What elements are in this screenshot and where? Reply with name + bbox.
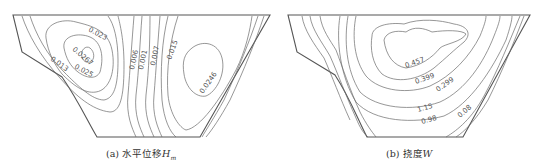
caption-a-prefix: (a) 水平位移 xyxy=(106,148,162,159)
contour-line xyxy=(136,16,144,137)
caption-b-symbol: W xyxy=(423,148,433,159)
contour-line xyxy=(446,16,520,137)
caption-panel-a: (a) 水平位移Hm xyxy=(106,146,176,161)
panel-a-outline xyxy=(13,15,270,137)
contour-line xyxy=(161,16,176,137)
panel-b-deflection: 0.457 0.399 0.299 1.15 0.98 0.08 xyxy=(288,15,530,137)
contour-label: 0.98 xyxy=(420,114,437,126)
contour-label: 1.15 xyxy=(416,102,433,114)
contour-line xyxy=(22,16,124,112)
contour-line xyxy=(154,16,162,137)
contour-label: 0.457 xyxy=(404,56,426,70)
panel-a-horizontal-displacement: 0.023 0.0267 0.025 0.013 0.006 0.001 0.0… xyxy=(13,15,270,137)
contour-line xyxy=(146,16,154,137)
contour-label: 0.025 xyxy=(73,63,94,79)
contour-label: 0.08 xyxy=(456,103,473,119)
contour-line xyxy=(128,16,136,137)
caption-a-subscript: m xyxy=(170,154,176,161)
contour-label: 0.399 xyxy=(414,72,436,86)
contour-line xyxy=(320,16,376,137)
contour-figure: 0.023 0.0267 0.025 0.013 0.006 0.001 0.0… xyxy=(0,0,547,167)
contour-line xyxy=(310,16,368,137)
contour-label: 0.015 xyxy=(165,39,179,61)
contour-label: 0.299 xyxy=(435,76,456,94)
contour-label: 0.0246 xyxy=(198,70,219,95)
caption-b-prefix: (b) 挠度 xyxy=(386,148,423,159)
contour-label: 0.007 xyxy=(149,45,161,66)
caption-panel-b: (b) 挠度W xyxy=(386,146,432,160)
contour-label: 0.023 xyxy=(87,26,108,42)
